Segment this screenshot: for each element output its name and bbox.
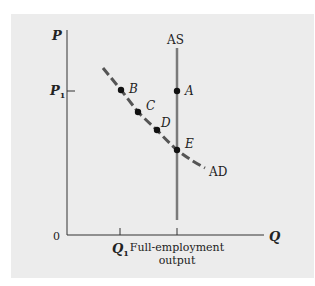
ad-curve [103, 68, 205, 168]
point-d-label: D [160, 116, 171, 130]
point-c-marker [135, 109, 141, 115]
as-label: AS [166, 33, 184, 47]
point-c-label: C [146, 99, 155, 113]
full-employment-label-line1: Full-employment [130, 241, 225, 254]
point-a-label: B [128, 82, 138, 96]
q-axis-label: Q [269, 229, 281, 244]
q1-label: Q1 [112, 241, 129, 258]
as-ad-chart: B C D A E AS AD P Q 0 P1 Q1 Full-employm… [0, 0, 315, 286]
origin-label: 0 [53, 230, 60, 243]
point-a-marker [174, 88, 180, 94]
full-employment-label-line2: output [159, 254, 196, 267]
point-e-marker [174, 147, 180, 153]
point-d-marker [154, 127, 160, 133]
p1-label: P1 [49, 83, 65, 100]
point-e-label: E [184, 137, 194, 151]
p-axis-label: P [51, 28, 63, 43]
ad-label: AD [208, 165, 227, 179]
point-a-text: A [184, 84, 194, 98]
point-b-marker [118, 87, 124, 93]
